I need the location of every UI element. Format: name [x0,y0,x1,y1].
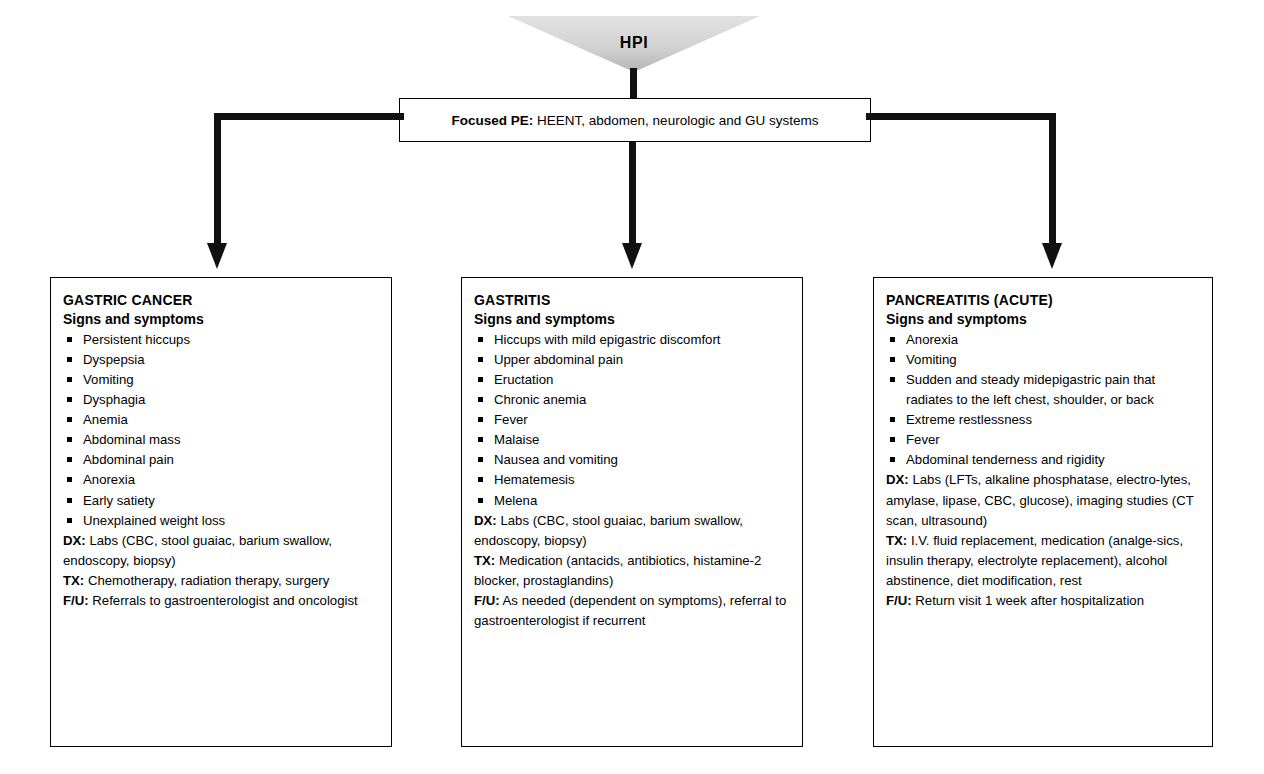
symptom-text: Abdominal tenderness and rigidity [906,452,1105,467]
plan-line-dx: DX: Labs (LFTs, alkaline phosphatase, el… [886,470,1202,530]
connector-drop-gastritis [629,142,636,251]
arrowhead-gastritis [622,243,642,269]
condition-title: PANCREATITIS (ACUTE) [886,292,1202,310]
condition-title: GASTRIC CANCER [63,292,381,310]
list-item: Extreme restlessness [886,410,1202,430]
symptom-text: Vomiting [83,372,134,387]
symptom-text: Sudden and steady midepigastric pain tha… [906,372,1155,407]
hpi-label: HPI [508,34,760,52]
plan-line-tx: TX: I.V. fluid replacement, medication (… [886,531,1202,591]
symptom-text: Eructation [494,372,553,387]
list-item: Vomiting [63,370,381,390]
plan-line-dx: DX: Labs (CBC, stool guaiac, barium swal… [63,531,381,571]
plan-line-fu: F/U: As needed (dependent on symptoms), … [474,591,792,631]
plan-key-fu: F/U: [886,593,912,608]
list-item: Dyspepsia [63,350,381,370]
list-item: Vomiting [886,350,1202,370]
square-bullet-icon [478,437,483,442]
symptom-text: Persistent hiccups [83,332,190,347]
plan-text-fu: As needed (dependent on symptoms), refer… [474,593,786,628]
plan-line-fu: F/U: Referrals to gastroenterologist and… [63,591,381,611]
symptom-list-gastric-cancer: Persistent hiccups Dyspepsia Vomiting Dy… [63,330,381,531]
square-bullet-icon [67,377,72,382]
square-bullet-icon [890,457,895,462]
list-item: Dysphagia [63,390,381,410]
symptom-text: Nausea and vomiting [494,452,618,467]
plan-line-dx: DX: Labs (CBC, stool guaiac, barium swal… [474,511,792,551]
symptom-text: Malaise [494,432,539,447]
square-bullet-icon [67,397,72,402]
list-item: Nausea and vomiting [474,450,792,470]
symptom-text: Vomiting [906,352,957,367]
symptom-text: Upper abdominal pain [494,352,623,367]
plan-text-tx: Medication (antacids, antibiotics, hista… [474,553,761,588]
flowchart-canvas: HPI Focused PE: HEENT, abdomen, neurolog… [0,0,1264,774]
plan-text-fu: Return visit 1 week after hospitalizatio… [915,593,1144,608]
symptom-text: Anorexia [83,472,135,487]
symptom-text: Fever [494,412,528,427]
symptom-text: Anemia [83,412,128,427]
plan-key-dx: DX: [63,533,86,548]
list-item: Upper abdominal pain [474,350,792,370]
connector-drop-gastric-cancer [214,113,221,251]
square-bullet-icon [478,337,483,342]
list-item: Anorexia [63,470,381,490]
square-bullet-icon [67,357,72,362]
square-bullet-icon [67,457,72,462]
connector-hpi-to-pe [630,68,637,100]
list-item: Sudden and steady midepigastric pain tha… [886,370,1202,410]
list-item: Fever [886,430,1202,450]
list-item: Abdominal mass [63,430,381,450]
plan-text-tx: Chemotherapy, radiation therapy, surgery [88,573,329,588]
list-item: Hiccups with mild epigastric discomfort [474,330,792,350]
plan-key-tx: TX: [63,573,84,588]
connector-bar-right [866,113,1056,120]
square-bullet-icon [478,377,483,382]
plan-text-dx: Labs (CBC, stool guaiac, barium swallow,… [474,513,743,548]
list-item: Abdominal tenderness and rigidity [886,450,1202,470]
symptom-text: Hiccups with mild epigastric discomfort [494,332,720,347]
plan-key-dx: DX: [474,513,497,528]
square-bullet-icon [478,498,483,503]
focused-pe-box: Focused PE: HEENT, abdomen, neurologic a… [399,98,871,142]
square-bullet-icon [890,437,895,442]
square-bullet-icon [478,457,483,462]
focused-pe-text: Focused PE: HEENT, abdomen, neurologic a… [452,113,819,128]
focused-pe-lead: Focused PE: [452,113,534,128]
square-bullet-icon [890,357,895,362]
list-item: Anemia [63,410,381,430]
plan-key-tx: TX: [886,533,907,548]
connector-drop-pancreatitis [1049,113,1056,251]
list-item: Chronic anemia [474,390,792,410]
list-item: Persistent hiccups [63,330,381,350]
square-bullet-icon [67,477,72,482]
symptom-text: Anorexia [906,332,958,347]
symptom-list-pancreatitis: Anorexia Vomiting Sudden and steady mide… [886,330,1202,470]
condition-subtitle: Signs and symptoms [886,311,1202,329]
arrowhead-pancreatitis [1042,243,1062,269]
symptom-text: Fever [906,432,940,447]
list-item: Fever [474,410,792,430]
plan-line-tx: TX: Chemotherapy, radiation therapy, sur… [63,571,381,591]
hpi-funnel: HPI [508,16,760,72]
square-bullet-icon [67,518,72,523]
plan-key-tx: TX: [474,553,495,568]
plan-key-fu: F/U: [474,593,500,608]
symptom-text: Abdominal pain [83,452,174,467]
square-bullet-icon [67,437,72,442]
condition-subtitle: Signs and symptoms [63,311,381,329]
symptom-text: Abdominal mass [83,432,180,447]
symptom-text: Hematemesis [494,472,575,487]
condition-card-gastritis: GASTRITIS Signs and symptoms Hiccups wit… [461,277,803,747]
list-item: Melena [474,491,792,511]
plan-key-dx: DX: [886,472,909,487]
plan-text-tx: I.V. fluid replacement, medication (anal… [886,533,1183,588]
symptom-text: Extreme restlessness [906,412,1032,427]
symptom-text: Unexplained weight loss [83,513,225,528]
plan-line-tx: TX: Medication (antacids, antibiotics, h… [474,551,792,591]
symptom-text: Chronic anemia [494,392,586,407]
symptom-text: Early satiety [83,493,155,508]
square-bullet-icon [67,417,72,422]
square-bullet-icon [67,337,72,342]
list-item: Malaise [474,430,792,450]
